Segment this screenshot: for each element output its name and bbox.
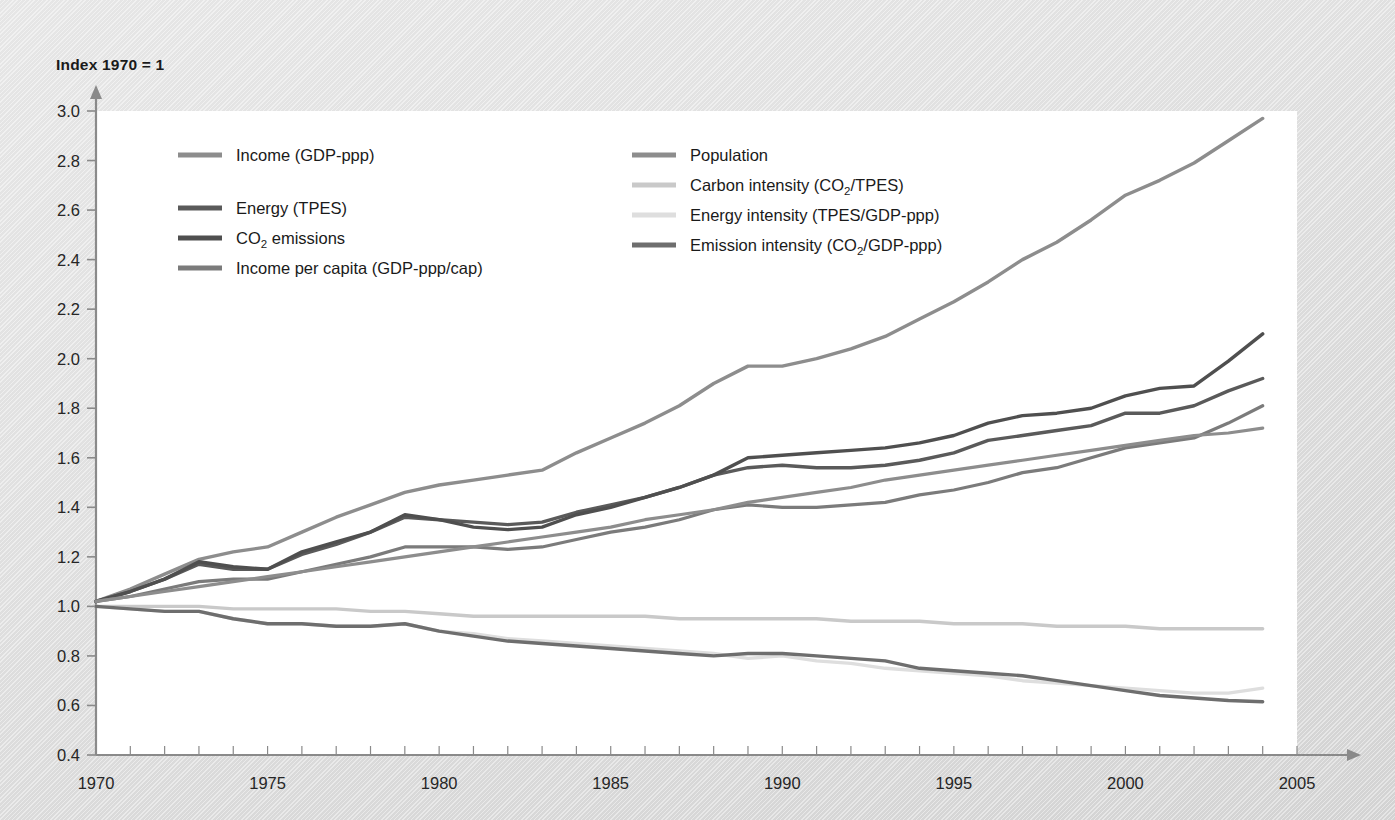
y-tick-label: 2.6 bbox=[57, 201, 80, 219]
y-tick-label: 2.0 bbox=[57, 350, 80, 368]
y-tick-label: 1.0 bbox=[57, 597, 80, 615]
x-tick-label: 1985 bbox=[592, 774, 629, 792]
legend-label-carbon_intensity: Carbon intensity (CO2/TPES) bbox=[690, 176, 904, 197]
line-chart: 0.40.60.81.01.21.41.61.82.02.22.42.62.83… bbox=[0, 0, 1395, 820]
y-tick-label: 2.2 bbox=[57, 300, 80, 318]
legend-label-energy_intensity: Energy intensity (TPES/GDP-ppp) bbox=[690, 206, 939, 224]
x-axis-arrow bbox=[1347, 749, 1361, 761]
legend-label-income: Income (GDP-ppp) bbox=[236, 146, 374, 164]
x-tick-label: 1995 bbox=[935, 774, 972, 792]
legend-label-co2: CO2 emissions bbox=[236, 229, 345, 250]
x-tick-label: 1980 bbox=[421, 774, 458, 792]
y-tick-label: 2.4 bbox=[57, 251, 80, 269]
x-tick-label: 2000 bbox=[1107, 774, 1144, 792]
y-tick-label: 1.2 bbox=[57, 548, 80, 566]
legend-label-emission_intensity: Emission intensity (CO2/GDP-ppp) bbox=[690, 236, 942, 257]
x-tick-label: 2005 bbox=[1279, 774, 1316, 792]
figure-container: Index 1970 = 1 0.40.60.81.01.21.41.61.82… bbox=[0, 0, 1395, 820]
x-tick-label: 1990 bbox=[764, 774, 801, 792]
y-tick-label: 1.8 bbox=[57, 399, 80, 417]
legend-label-population: Population bbox=[690, 146, 768, 164]
y-tick-label: 1.6 bbox=[57, 449, 80, 467]
y-axis-ticks: 0.40.60.81.01.21.41.61.82.02.22.42.62.83… bbox=[57, 102, 96, 764]
y-tick-label: 2.8 bbox=[57, 152, 80, 170]
y-tick-label: 0.4 bbox=[57, 746, 80, 764]
y-tick-label: 0.8 bbox=[57, 647, 80, 665]
legend-label-energy: Energy (TPES) bbox=[236, 199, 347, 217]
y-tick-label: 3.0 bbox=[57, 102, 80, 120]
legend-label-income_per_capita: Income per capita (GDP-ppp/cap) bbox=[236, 259, 483, 277]
y-axis-arrow bbox=[90, 85, 102, 99]
x-tick-label: 1975 bbox=[249, 774, 286, 792]
y-tick-label: 1.4 bbox=[57, 498, 80, 516]
y-tick-label: 0.6 bbox=[57, 696, 80, 714]
x-tick-label: 1970 bbox=[78, 774, 115, 792]
